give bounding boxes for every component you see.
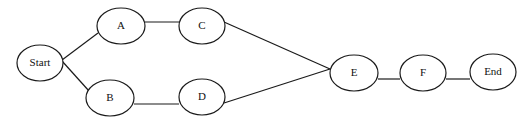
- node-label: C: [198, 19, 205, 31]
- node-e: E: [330, 55, 378, 91]
- node-label: D: [198, 90, 206, 102]
- node-start: Start: [17, 45, 63, 81]
- node-a: A: [97, 8, 145, 44]
- node-c: C: [179, 8, 225, 44]
- nodes-group: StartABCDEFEnd: [17, 8, 516, 116]
- node-label: F: [420, 66, 426, 78]
- edge-start-a: [62, 33, 98, 60]
- edge-start-b: [62, 61, 89, 91]
- node-f: F: [400, 55, 446, 91]
- node-label: Start: [30, 56, 51, 68]
- node-d: D: [179, 79, 225, 115]
- edge-c-e: [224, 22, 330, 69]
- node-label: A: [117, 19, 125, 31]
- node-b: B: [86, 80, 134, 116]
- node-label: End: [484, 65, 502, 77]
- network-diagram: StartABCDEFEnd: [0, 0, 529, 121]
- node-label: B: [106, 91, 113, 103]
- node-end: End: [470, 54, 516, 90]
- node-label: E: [351, 66, 358, 78]
- edge-d-e: [224, 69, 330, 103]
